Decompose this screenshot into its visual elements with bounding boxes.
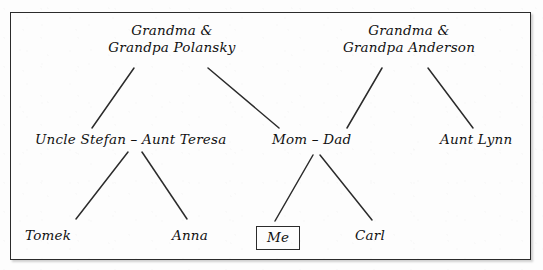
grandparents-anderson-line2: Grandpa Anderson [343, 39, 475, 56]
node-aunt-lynn: Aunt Lynn [440, 131, 512, 148]
node-carl: Carl [355, 227, 385, 244]
node-me-highlighted: Me [256, 226, 300, 250]
grandparents-anderson-line1: Grandma & [368, 22, 450, 38]
grandparents-polansky-line2: Grandpa Polansky [108, 39, 235, 56]
node-mom-dad: Mom – Dad [272, 131, 351, 148]
node-grandparents-polansky: Grandma & Grandpa Polansky [108, 22, 235, 56]
node-anna: Anna [172, 227, 208, 244]
node-grandparents-anderson: Grandma & Grandpa Anderson [343, 22, 475, 56]
node-uncle-stefan-aunt-teresa: Uncle Stefan – Aunt Teresa [35, 131, 226, 148]
family-tree-figure: Grandma & Grandpa Polansky Grandma & Gra… [0, 0, 543, 270]
node-tomek: Tomek [25, 227, 71, 244]
grandparents-polansky-line1: Grandma & [131, 22, 213, 38]
